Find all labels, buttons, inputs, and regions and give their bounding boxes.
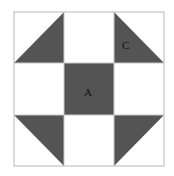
label-a: A xyxy=(84,86,92,98)
label-c: C xyxy=(122,39,129,51)
quilt-block-diagram: A C xyxy=(0,0,174,176)
